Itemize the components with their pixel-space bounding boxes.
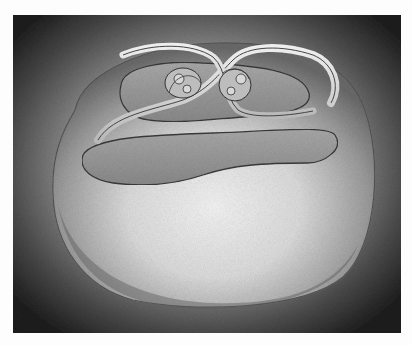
artwork-drawing xyxy=(13,15,401,333)
artwork-frame xyxy=(13,15,401,333)
recursive-copy-left xyxy=(165,68,201,98)
recursive-copy-right xyxy=(219,69,251,101)
